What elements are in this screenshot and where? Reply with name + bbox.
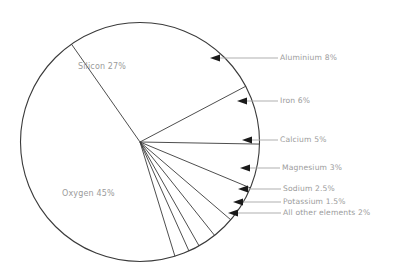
slice-label-magnesium: Magnesium 3% xyxy=(282,164,342,172)
slice-label-other: All other elements 2% xyxy=(283,209,370,217)
slice-label-iron: Iron 6% xyxy=(280,97,310,105)
slice-label-potassium: Potassium 1.5% xyxy=(283,198,346,206)
slice-label-calcium: Calcium 5% xyxy=(280,136,327,144)
pie-chart-svg xyxy=(0,0,402,273)
slice-label-aluminium: Aluminium 8% xyxy=(280,54,337,62)
slice-label-oxygen: Oxygen 45% xyxy=(62,190,115,198)
pie-chart-figure: Silicon 27% Oxygen 45% Aluminium 8% Iron… xyxy=(0,0,402,273)
slice-label-silicon: Silicon 27% xyxy=(78,63,126,71)
slice-label-sodium: Sodium 2.5% xyxy=(283,185,335,193)
